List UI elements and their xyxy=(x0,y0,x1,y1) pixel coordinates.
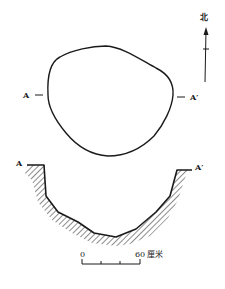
scale-start-label: 0 xyxy=(80,251,85,259)
section-label-a-prime: A′ xyxy=(195,163,203,171)
scale-unit-label: 厘米 xyxy=(147,251,163,259)
section-hatch-fill xyxy=(24,165,192,246)
section-label-a: A xyxy=(16,159,22,167)
plan-label-a-prime: A′ xyxy=(190,93,198,101)
plan-outline xyxy=(48,46,173,156)
north-label: 北 xyxy=(200,14,208,22)
north-arrow-icon xyxy=(203,27,209,82)
scale-bar xyxy=(82,259,140,264)
scale-end-label: 60 xyxy=(135,251,145,259)
plan-label-a: A xyxy=(23,91,29,99)
diagram-canvas xyxy=(0,0,225,289)
